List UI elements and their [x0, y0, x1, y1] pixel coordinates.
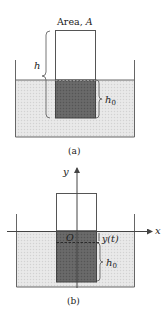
block-submerged-a [56, 80, 96, 118]
h-label: h [34, 60, 40, 71]
area-label: Area, A [56, 16, 93, 27]
origin-label: O [66, 232, 74, 243]
buoyancy-diagram: h h0 Area, A (a) x y O y(t) h0 [0, 0, 167, 310]
block-above-water-a [56, 31, 96, 81]
x-axis-label: x [155, 225, 161, 236]
displacement-label: y(t) [101, 233, 119, 244]
figure-a: h h0 Area, A (a) [16, 16, 135, 156]
caption-a: (a) [68, 146, 80, 156]
caption-b: (b) [67, 296, 80, 306]
y-axis-label: y [62, 166, 69, 177]
figure-b: x y O y(t) h0 (b) [7, 166, 161, 306]
